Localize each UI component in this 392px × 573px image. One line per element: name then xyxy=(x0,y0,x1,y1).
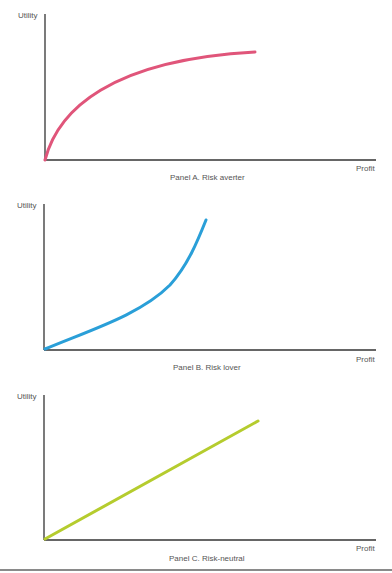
charts-canvas xyxy=(0,0,392,573)
panel-a-curve xyxy=(45,52,255,160)
panel-c-line xyxy=(45,421,258,539)
panel-b-caption: Panel B. Risk lover xyxy=(173,363,241,372)
panel-c-axes xyxy=(44,395,376,540)
panel-c-y-label: Utility xyxy=(17,392,37,401)
panel-b-x-label: Profit xyxy=(356,355,375,364)
panel-a-axes xyxy=(45,14,376,160)
panel-c-x-label: Profit xyxy=(356,544,375,553)
panel-a-caption: Panel A. Risk averter xyxy=(170,173,245,182)
panel-a-x-label: Profit xyxy=(356,164,375,173)
panel-c-caption: Panel C. Risk-neutral xyxy=(169,554,245,563)
bottom-divider xyxy=(0,569,392,571)
panel-b-curve xyxy=(45,220,206,349)
panel-a-y-label: Utility xyxy=(18,11,38,20)
panel-b-y-label: Utility xyxy=(17,201,37,210)
